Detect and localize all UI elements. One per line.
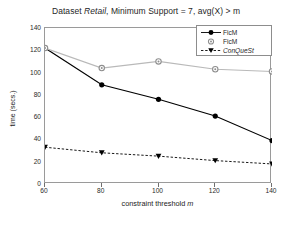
series-marker bbox=[45, 45, 48, 50]
y-tick-label: 120 bbox=[30, 46, 41, 53]
x-axis-label-text: constraint threshold bbox=[122, 199, 188, 208]
legend-item: FicM bbox=[199, 37, 269, 46]
y-tick-label: 140 bbox=[30, 24, 41, 31]
series-marker bbox=[99, 82, 104, 87]
x-tick-label: 140 bbox=[265, 187, 276, 194]
chart-title-dataset-name: Retail bbox=[84, 6, 106, 16]
legend-label: FicM bbox=[223, 28, 237, 37]
y-tick-label: 40 bbox=[34, 135, 41, 142]
chart-figure: Dataset Retail, Minimum Support = 7, avg… bbox=[0, 0, 292, 225]
chart-title-pre: Dataset bbox=[52, 6, 84, 16]
y-tick-label: 20 bbox=[34, 157, 41, 164]
x-tick-label: 60 bbox=[40, 187, 47, 194]
series-marker bbox=[269, 138, 272, 143]
legend-item: FicM bbox=[199, 28, 269, 37]
series-marker bbox=[156, 97, 161, 102]
series-marker bbox=[269, 161, 272, 166]
legend-marker-open-circle-icon bbox=[199, 37, 223, 46]
chart-title-post: , Minimum Support = 7, avg(X) > m bbox=[106, 6, 240, 16]
y-tick-label: 80 bbox=[34, 90, 41, 97]
series-marker bbox=[99, 65, 104, 70]
y-tick-label: 100 bbox=[30, 68, 41, 75]
series-marker bbox=[269, 69, 272, 74]
legend-label: FicM bbox=[223, 37, 237, 46]
x-axis-label: constraint threshold m bbox=[44, 199, 271, 208]
series-marker bbox=[213, 113, 218, 118]
x-tick-label: 120 bbox=[209, 187, 220, 194]
y-tick-label: 60 bbox=[34, 113, 41, 120]
series-marker bbox=[156, 154, 162, 159]
x-tick-label: 80 bbox=[97, 187, 104, 194]
legend-label: ConQueSt bbox=[223, 46, 254, 55]
chart-legend: FicMFicMConQueSt bbox=[196, 25, 272, 56]
x-tick-label: 100 bbox=[152, 187, 163, 194]
y-axis-ticks: 020406080100120140 bbox=[18, 0, 41, 225]
legend-marker-filled-circle-icon bbox=[199, 28, 223, 37]
legend-marker-filled-triangle-down-icon bbox=[199, 46, 223, 55]
x-axis-label-variable: m bbox=[187, 199, 193, 208]
legend-item: ConQueSt bbox=[199, 46, 269, 55]
y-tick-label: 0 bbox=[37, 180, 41, 187]
chart-title: Dataset Retail, Minimum Support = 7, avg… bbox=[0, 6, 292, 16]
series-marker bbox=[156, 59, 161, 64]
y-axis-label: time (secs.) bbox=[9, 74, 16, 144]
series-marker bbox=[213, 67, 218, 72]
